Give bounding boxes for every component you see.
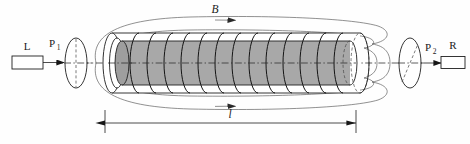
diagram-canvas: B [0,0,470,144]
source-box [12,56,43,69]
polarizer-label-base: P [49,37,55,49]
solenoid-assembly [103,33,369,93]
length-label: l [228,108,231,120]
polarizer-label-sub: 1 [57,43,61,52]
analyzer-label-sub: 2 [433,47,437,56]
source-label: L [24,40,31,52]
field-label-B: B [211,3,218,15]
detector-label: R [449,39,457,51]
faraday-effect-diagram: B [0,0,470,144]
detector-box [441,57,465,69]
analyzer-label-base: P [425,41,431,53]
